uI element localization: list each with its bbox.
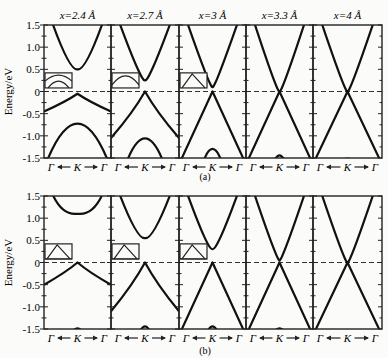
arrow-left-icon — [259, 336, 264, 341]
subfigure-caption: (b) — [199, 345, 211, 357]
x-tick-k: K — [275, 332, 284, 344]
panel-title: x=2.7 Å — [126, 9, 163, 21]
band-panel: ΓKΓx=2.4 Å — [40, 9, 111, 173]
band-panel: ΓKΓx=4 Å — [309, 9, 382, 173]
inset-zoom-box — [112, 244, 139, 259]
x-tick-k: K — [208, 332, 217, 344]
arrow-right-icon — [295, 165, 300, 170]
arrow-right-icon — [161, 336, 166, 341]
x-tick-gamma-left: Γ — [316, 332, 324, 344]
x-tick-k: K — [73, 161, 82, 173]
x-tick-gamma-right: Γ — [371, 332, 379, 344]
x-tick-k: K — [73, 332, 82, 344]
band-structure-figure: 1.51.00.50-0.5-1.0-1.5Energy/eVΓKΓx=2.4 … — [0, 0, 388, 358]
x-tick-k: K — [275, 161, 284, 173]
x-tick-gamma-left: Γ — [47, 332, 55, 344]
conduction-band — [120, 23, 171, 80]
band-panel: ΓKΓ — [40, 194, 111, 344]
lower-valence-band — [204, 149, 222, 161]
y-tick-label: 0.5 — [26, 234, 40, 246]
x-tick-gamma-right: Γ — [302, 161, 310, 173]
lower-valence-band — [47, 124, 108, 161]
x-tick-gamma-left: Γ — [114, 332, 122, 344]
arrow-right-icon — [93, 336, 98, 341]
y-tick-label: 1.0 — [26, 212, 40, 224]
y-tick-label: 1.0 — [26, 41, 40, 53]
arrow-left-icon — [57, 165, 62, 170]
arrow-right-icon — [93, 165, 98, 170]
arrow-right-icon — [161, 165, 166, 170]
arrow-right-icon — [228, 336, 233, 341]
y-tick-label: -1.0 — [23, 130, 41, 142]
y-tick-label: -0.5 — [23, 108, 41, 120]
conduction-band — [322, 23, 374, 92]
valence-band — [111, 92, 179, 139]
band-panel: ΓKΓ — [175, 194, 246, 344]
arrow-left-icon — [326, 165, 331, 170]
arrow-right-icon — [364, 165, 369, 170]
x-tick-gamma-left: Γ — [316, 161, 324, 173]
conduction-band — [322, 194, 374, 263]
y-tick-label: 0 — [35, 86, 41, 98]
x-tick-k: K — [140, 332, 149, 344]
valence-band — [111, 263, 179, 312]
x-tick-gamma-left: Γ — [249, 161, 257, 173]
inset-zoom-box — [45, 244, 72, 259]
y-axis-label: Energy/eV — [2, 239, 14, 287]
x-tick-gamma-right: Γ — [302, 332, 310, 344]
subfigure-b: 1.51.00.50-0.5-1.0-1.5Energy/eVΓKΓΓKΓΓKΓ… — [2, 190, 382, 357]
x-tick-gamma-right: Γ — [168, 161, 176, 173]
y-tick-label: -1.5 — [23, 152, 41, 164]
valence-band — [248, 263, 311, 332]
arrow-left-icon — [57, 336, 62, 341]
panel-title: x=4 Å — [333, 9, 362, 21]
arrow-left-icon — [192, 336, 197, 341]
conduction-band — [52, 23, 102, 69]
y-tick-label: 1.5 — [26, 190, 40, 202]
band-panel: ΓKΓ — [107, 194, 179, 344]
inset-zoom-box — [180, 73, 207, 88]
inset-zoom-box — [112, 73, 139, 88]
conduction-band — [254, 194, 304, 260]
arrow-left-icon — [259, 165, 264, 170]
valence-band — [248, 92, 311, 161]
subfigure-a: 1.51.00.50-0.5-1.0-1.5Energy/eVΓKΓx=2.4 … — [2, 9, 382, 183]
panel-title: x=3.3 Å — [261, 9, 298, 21]
arrow-right-icon — [364, 336, 369, 341]
x-tick-k: K — [140, 161, 149, 173]
conduction-band — [187, 194, 237, 249]
arrow-right-icon — [295, 336, 300, 341]
valence-band — [44, 263, 111, 285]
valence-band — [44, 94, 111, 112]
band-panel: ΓKΓ — [242, 194, 313, 344]
x-tick-k: K — [343, 161, 352, 173]
y-tick-label: 1.5 — [26, 19, 40, 31]
x-tick-gamma-left: Γ — [249, 332, 257, 344]
valence-band — [181, 263, 244, 332]
x-tick-gamma-left: Γ — [182, 161, 190, 173]
conduction-band — [254, 23, 304, 92]
conduction-band — [120, 194, 171, 238]
x-tick-gamma-left: Γ — [47, 161, 55, 173]
x-tick-gamma-left: Γ — [182, 332, 190, 344]
band-panel: ΓKΓx=3 Å — [175, 9, 246, 173]
y-tick-label: 0.5 — [26, 63, 40, 75]
y-axis-label: Energy/eV — [2, 68, 14, 116]
x-tick-gamma-right: Γ — [168, 332, 176, 344]
arrow-left-icon — [124, 165, 129, 170]
panel-title: x=3 Å — [198, 9, 227, 21]
conduction-band — [52, 194, 102, 214]
y-tick-label: 0 — [35, 257, 41, 269]
x-tick-gamma-right: Γ — [100, 161, 108, 173]
arrow-left-icon — [124, 336, 129, 341]
valence-band — [315, 263, 380, 332]
x-tick-gamma-right: Γ — [235, 332, 243, 344]
band-panel: ΓKΓx=3.3 Å — [242, 9, 313, 173]
panel-title: x=2.4 Å — [59, 9, 96, 21]
x-tick-gamma-left: Γ — [114, 161, 122, 173]
y-tick-label: -1.5 — [23, 323, 41, 335]
arrow-left-icon — [192, 165, 197, 170]
arrow-right-icon — [228, 165, 233, 170]
band-panel: ΓKΓ — [309, 194, 382, 344]
inset-zoom-box — [45, 73, 72, 88]
